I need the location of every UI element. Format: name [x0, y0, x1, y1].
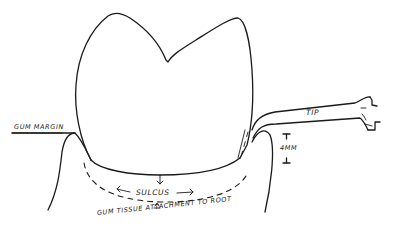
- sulcus-down-arrow: [157, 175, 163, 184]
- gum-margin-label: GUM MARGIN: [14, 123, 64, 131]
- sulcus-left-arrow: [117, 186, 130, 192]
- sulcus-label: SULCUS: [136, 188, 170, 197]
- probe-handle-marks: [361, 108, 372, 126]
- tooth-diagram: GUM MARGIN TIP 4MM SULCUS GUM TISSUE ATT…: [0, 0, 396, 234]
- sulcus-right-arrow: [177, 189, 193, 195]
- tip-label: TIP: [306, 108, 319, 117]
- right-gum-body: [252, 131, 273, 212]
- tooth-root-curve: [91, 158, 240, 175]
- left-gum-body: [48, 133, 75, 210]
- measure-label: 4MM: [280, 144, 297, 152]
- tooth-crown-outline: [76, 13, 253, 160]
- left-gum-outline: [12, 133, 91, 160]
